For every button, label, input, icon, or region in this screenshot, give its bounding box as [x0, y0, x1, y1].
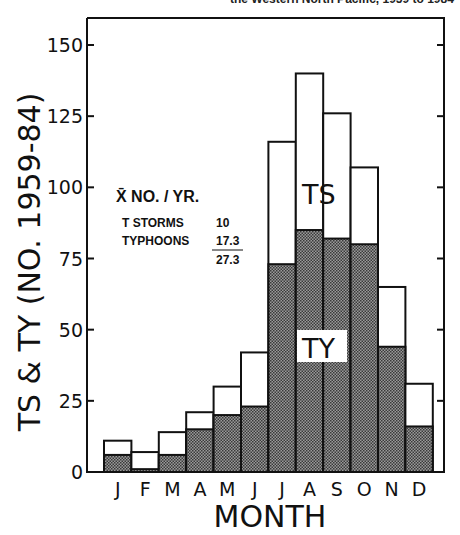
month-label: J [251, 478, 258, 500]
y-tick-label: 50 [59, 319, 83, 341]
ty-bar-segment [241, 407, 268, 472]
month-bar [268, 142, 295, 472]
month-bar [131, 452, 158, 472]
y-tick-label: 25 [59, 390, 83, 412]
month-label: J [278, 478, 285, 500]
bars-layer [104, 73, 433, 472]
ty-bar-segment [405, 426, 432, 472]
month-label: J [114, 478, 121, 500]
ty-bar-segment [159, 455, 186, 472]
x-axis-month-labels: JFMAMJJASOND [114, 478, 427, 500]
legend-box: X̄ NO. / YR. T STORMS 10 TYPHOONS 17.3 2… [116, 187, 243, 267]
y-tick-label: 0 [71, 461, 83, 483]
month-label: A [303, 478, 316, 500]
legend-row-typhoons-value: 17.3 [216, 234, 240, 248]
legend-row-storms-value: 10 [216, 216, 230, 230]
month-bar [159, 432, 186, 472]
x-axis-label: MONTH [214, 499, 327, 534]
ty-bar-segment [214, 415, 241, 472]
legend-total: 27.3 [216, 253, 240, 267]
month-bar [323, 113, 350, 472]
ty-bar-segment [268, 264, 295, 472]
ty-bar-segment [186, 429, 213, 472]
month-bar [104, 441, 131, 472]
ty-annotation: TY [301, 333, 335, 364]
y-tick-label: 75 [59, 248, 83, 270]
ts-annotation: TS [301, 179, 336, 210]
month-label: M [164, 478, 180, 500]
month-bar [405, 384, 432, 472]
month-bar [351, 167, 378, 472]
ty-bar-segment [104, 455, 131, 472]
ty-bar-segment [351, 244, 378, 472]
month-label: F [140, 478, 151, 500]
legend-row-storms-label: T STORMS [122, 216, 184, 230]
month-label: S [331, 478, 343, 500]
month-label: N [385, 478, 399, 500]
y-tick-label: 125 [47, 105, 83, 127]
month-label: O [357, 478, 372, 500]
month-label: M [219, 478, 235, 500]
y-tick-label: 150 [47, 34, 83, 56]
month-bar [186, 412, 213, 472]
y-tick-label: 100 [47, 176, 83, 198]
legend-heading: X̄ NO. / YR. [116, 187, 199, 205]
month-label: A [193, 478, 206, 500]
legend-row-typhoons-label: TYPHOONS [122, 234, 189, 248]
month-label: D [412, 478, 427, 500]
month-bar [378, 287, 405, 472]
histogram-chart: 0255075100125150 JFMAMJJASOND TS & TY (N… [0, 0, 460, 535]
y-axis-label: TS & TY (NO. 1959-84) [12, 93, 47, 433]
month-bar [296, 73, 323, 472]
month-bar [241, 352, 268, 472]
month-bar [214, 387, 241, 472]
ty-bar-segment [378, 347, 405, 472]
